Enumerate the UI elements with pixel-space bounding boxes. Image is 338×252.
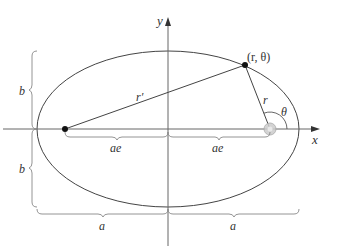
r-prime-label: r′ xyxy=(136,90,144,104)
b-bottom-label: b xyxy=(19,162,25,176)
a-right-brace xyxy=(168,209,299,217)
a-right-label: a xyxy=(230,219,236,233)
ae-left-label: ae xyxy=(110,141,122,155)
ellipse-diagram: y x (r, θ) r′ r θ ae ae b b a a xyxy=(0,0,338,252)
a-left-brace xyxy=(37,209,168,217)
b-bottom-brace xyxy=(29,129,37,207)
r-label: r xyxy=(263,93,268,107)
b-top-brace xyxy=(29,51,37,129)
left-focus-point xyxy=(62,126,68,132)
ae-right-label: ae xyxy=(212,141,224,155)
r-prime-line xyxy=(65,65,245,129)
b-top-label: b xyxy=(19,84,25,98)
y-axis-label: y xyxy=(155,13,163,28)
ae-right-brace xyxy=(168,132,270,140)
ae-left-brace xyxy=(65,132,168,140)
theta-label: θ xyxy=(281,105,287,119)
a-left-label: a xyxy=(99,219,105,233)
x-axis-label: x xyxy=(311,132,318,147)
point-label: (r, θ) xyxy=(247,50,270,64)
y-axis-arrow-icon xyxy=(165,17,171,26)
sun-core-icon xyxy=(268,127,273,132)
